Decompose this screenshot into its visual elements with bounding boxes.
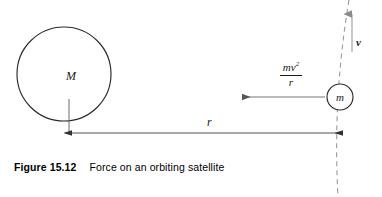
figure-caption: Figure 15.12Force on an orbiting satelli… — [14, 161, 224, 173]
force-denominator: r — [289, 76, 293, 89]
central-mass-circle — [17, 27, 111, 121]
radius-label: r — [207, 116, 212, 128]
centripetal-force-formula: mv2 r — [280, 62, 302, 88]
force-numerator-base: mv — [283, 61, 296, 73]
caption-number: Figure 15.12 — [14, 161, 76, 173]
satellite-mass-label: m — [336, 92, 344, 103]
figure-container: M m v r mv2 r Figure 15.12Force on an or… — [0, 0, 382, 197]
velocity-label: v — [356, 37, 361, 48]
force-exponent: 2 — [296, 60, 300, 68]
caption-text: Force on an orbiting satellite — [76, 161, 224, 173]
central-mass-label: M — [66, 70, 76, 82]
force-numerator: mv2 — [281, 62, 301, 75]
